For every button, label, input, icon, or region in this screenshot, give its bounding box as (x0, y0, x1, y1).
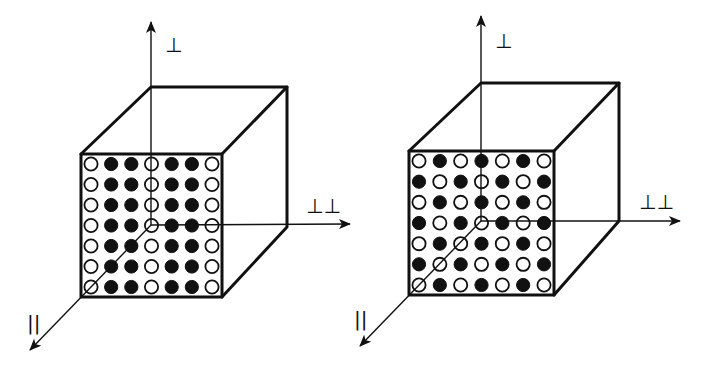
filled-site-circle (125, 219, 138, 232)
filled-site-circle (105, 157, 118, 170)
filled-site-circle (105, 280, 118, 293)
parallel-label: || (354, 307, 367, 331)
double-perpendicular-axis-arrow (151, 224, 350, 225)
filled-site-circle (105, 260, 118, 273)
filled-site-circle (185, 219, 198, 232)
cube-left: ⊥⊥⊥|| (27, 22, 350, 350)
open-site-circle (496, 237, 509, 250)
open-site-circle (537, 154, 550, 167)
filled-site-circle (412, 216, 425, 229)
axis-labels: ⊥⊥⊥|| (354, 29, 674, 331)
open-site-circle (205, 219, 218, 232)
filled-site-circle (496, 216, 509, 229)
filled-site-circle (475, 278, 488, 291)
filled-site-circle (165, 219, 178, 232)
open-site-circle (517, 175, 530, 188)
filled-site-circle (517, 154, 530, 167)
filled-site-circle (433, 196, 446, 209)
filled-site-circle (125, 239, 138, 252)
filled-site-circle (125, 157, 138, 170)
open-site-circle (84, 219, 97, 232)
open-site-circle (537, 237, 550, 250)
filled-site-circle (185, 198, 198, 211)
open-site-circle (537, 278, 550, 291)
filled-site-circle (496, 175, 509, 188)
side-face (554, 83, 619, 295)
top-face (81, 87, 287, 154)
open-site-circle (84, 239, 97, 252)
two-cube-lattice-diagram: ⊥⊥⊥|| ⊥⊥⊥|| (0, 0, 707, 367)
filled-site-circle (475, 154, 488, 167)
filled-site-circle (125, 260, 138, 273)
filled-site-circle (517, 278, 530, 291)
perpendicular-label: ⊥ (495, 29, 512, 53)
open-site-circle (517, 216, 530, 229)
open-site-circle (454, 196, 467, 209)
open-site-circle (496, 278, 509, 291)
filled-site-circle (185, 178, 198, 191)
open-site-circle (496, 154, 509, 167)
open-site-circle (205, 280, 218, 293)
filled-site-circle (454, 258, 467, 271)
filled-site-circle (475, 196, 488, 209)
filled-site-circle (165, 157, 178, 170)
open-site-circle (205, 260, 218, 273)
double-perpendicular-label: ⊥⊥ (306, 194, 341, 218)
open-site-circle (433, 216, 446, 229)
filled-site-circle (125, 198, 138, 211)
filled-site-circle (125, 280, 138, 293)
filled-site-circle (496, 258, 509, 271)
open-site-circle (84, 157, 97, 170)
filled-site-circle (185, 157, 198, 170)
filled-site-circle (105, 219, 118, 232)
filled-site-circle (165, 239, 178, 252)
open-site-circle (537, 196, 550, 209)
cube-right: ⊥⊥⊥|| (354, 16, 680, 346)
open-site-circle (412, 237, 425, 250)
open-site-circle (205, 198, 218, 211)
filled-site-circle (165, 280, 178, 293)
open-site-circle (517, 258, 530, 271)
diagram-stage: ⊥⊥⊥|| ⊥⊥⊥|| (0, 0, 707, 367)
open-site-circle (433, 175, 446, 188)
filled-site-circle (517, 196, 530, 209)
open-site-circle (454, 237, 467, 250)
open-site-circle (412, 154, 425, 167)
filled-site-circle (537, 175, 550, 188)
open-site-circle (454, 278, 467, 291)
open-site-circle (205, 178, 218, 191)
filled-site-circle (105, 178, 118, 191)
filled-site-circle (105, 239, 118, 252)
filled-site-circle (185, 280, 198, 293)
filled-site-circle (433, 237, 446, 250)
open-site-circle (475, 258, 488, 271)
open-site-circle (84, 198, 97, 211)
filled-site-circle (412, 175, 425, 188)
open-site-circle (84, 260, 97, 273)
filled-site-circle (517, 237, 530, 250)
parallel-label: || (27, 311, 40, 335)
filled-site-circle (165, 260, 178, 273)
filled-site-circle (165, 178, 178, 191)
filled-site-circle (185, 260, 198, 273)
perpendicular-label: ⊥ (165, 33, 182, 57)
filled-site-circle (412, 258, 425, 271)
filled-site-circle (185, 239, 198, 252)
open-site-circle (145, 239, 158, 252)
filled-site-circle (105, 198, 118, 211)
open-site-circle (454, 154, 467, 167)
filled-site-circle (537, 216, 550, 229)
filled-site-circle (454, 175, 467, 188)
parallel-axis-arrow (360, 221, 481, 346)
double-perpendicular-label: ⊥⊥ (639, 190, 674, 214)
filled-site-circle (165, 198, 178, 211)
open-site-circle (205, 157, 218, 170)
filled-site-circle (125, 178, 138, 191)
open-site-circle (84, 178, 97, 191)
open-site-circle (496, 196, 509, 209)
open-site-circle (412, 196, 425, 209)
filled-site-circle (475, 237, 488, 250)
open-site-circle (145, 260, 158, 273)
filled-site-circle (433, 278, 446, 291)
filled-site-circle (537, 258, 550, 271)
